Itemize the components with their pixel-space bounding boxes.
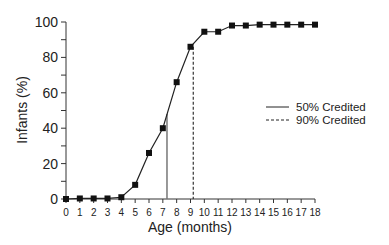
data-point-marker	[215, 29, 221, 35]
x-tick-label: 11	[213, 207, 224, 218]
x-tick-label: 4	[119, 207, 125, 218]
x-tick-label: 15	[268, 207, 280, 218]
legend-label: 50% Credited	[296, 101, 366, 113]
x-tick-label: 14	[254, 207, 266, 218]
series-line	[66, 25, 315, 199]
y-axis-label: Infants (%)	[14, 76, 30, 144]
y-tick-label: 20	[42, 156, 58, 172]
x-tick-label: 18	[309, 207, 321, 218]
y-tick-label: 100	[35, 14, 59, 30]
data-point-marker	[271, 22, 277, 28]
data-point-marker	[188, 44, 194, 50]
data-point-marker	[63, 196, 69, 202]
data-point-marker	[243, 23, 249, 29]
x-tick-label: 9	[188, 207, 194, 218]
data-point-marker	[146, 150, 152, 156]
legend: 50% Credited90% Credited	[266, 101, 366, 126]
data-point-marker	[132, 182, 138, 188]
data-point-marker	[201, 29, 207, 35]
x-tick-label: 17	[296, 207, 308, 218]
data-point-marker	[284, 22, 290, 28]
x-tick-label: 0	[63, 207, 69, 218]
x-axis-label: Age (months)	[148, 219, 232, 235]
x-tick-label: 6	[146, 207, 152, 218]
data-point-marker	[298, 22, 304, 28]
x-tick-label: 8	[174, 207, 180, 218]
x-tick-label: 13	[240, 207, 252, 218]
axes: 0204060801000123456789101112131415161718	[35, 14, 321, 218]
y-tick-label: 0	[50, 191, 58, 207]
x-tick-label: 3	[105, 207, 111, 218]
chart: 0204060801000123456789101112131415161718…	[0, 0, 389, 245]
x-tick-label: 16	[282, 207, 294, 218]
data-point-marker	[91, 195, 97, 201]
x-tick-label: 1	[77, 207, 83, 218]
data-point-marker	[229, 23, 235, 29]
data-point-marker	[118, 194, 124, 200]
y-tick-label: 40	[42, 120, 58, 136]
data-point-marker	[174, 79, 180, 85]
reference-lines	[167, 47, 193, 199]
data-point-marker	[312, 22, 318, 28]
x-tick-label: 5	[132, 207, 138, 218]
data-series	[63, 22, 318, 202]
data-point-marker	[257, 22, 263, 28]
y-tick-label: 80	[42, 49, 58, 65]
data-point-marker	[160, 125, 166, 131]
x-tick-label: 2	[91, 207, 97, 218]
legend-label: 90% Credited	[296, 114, 366, 126]
x-tick-label: 12	[226, 207, 238, 218]
data-point-marker	[105, 195, 111, 201]
data-point-marker	[77, 195, 83, 201]
y-tick-label: 60	[42, 85, 58, 101]
x-tick-label: 7	[160, 207, 166, 218]
x-tick-label: 10	[199, 207, 211, 218]
